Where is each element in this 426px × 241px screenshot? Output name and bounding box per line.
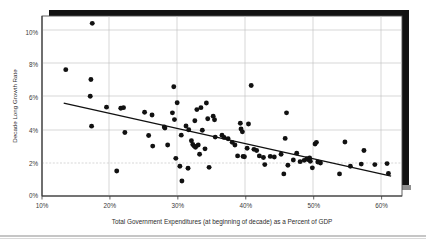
scatter-point bbox=[90, 21, 95, 26]
scatter-point bbox=[114, 169, 119, 174]
scatter-point bbox=[170, 110, 175, 115]
x-tick-label: 40% bbox=[239, 202, 252, 209]
scatter-point bbox=[342, 140, 347, 145]
scatter-point bbox=[200, 128, 205, 133]
x-tick-label: 20% bbox=[104, 202, 117, 209]
scatter-point bbox=[281, 171, 286, 176]
scatter-plot: 0%2%4%6%8%10% 10%20%30%40%50%60% Decade … bbox=[0, 0, 426, 241]
y-tick-label: 10% bbox=[25, 29, 38, 36]
scatter-point bbox=[385, 161, 390, 166]
x-axis-title: Total Government Expenditures (at beginn… bbox=[112, 218, 333, 226]
scatter-point bbox=[272, 155, 277, 160]
scatter-point bbox=[249, 83, 254, 88]
scatter-point bbox=[245, 146, 250, 151]
scatter-point bbox=[238, 121, 243, 126]
scatter-point bbox=[150, 113, 155, 118]
scatter-point bbox=[232, 143, 237, 148]
scatter-point bbox=[284, 110, 289, 115]
scatter-point bbox=[122, 130, 127, 135]
y-tick-label: 0% bbox=[29, 192, 39, 199]
scatter-point bbox=[177, 164, 182, 169]
scatter-point bbox=[314, 140, 319, 145]
y-tick-label: 6% bbox=[29, 94, 39, 101]
scatter-point bbox=[198, 105, 203, 110]
scatter-point bbox=[205, 116, 210, 121]
scatter-point bbox=[89, 124, 94, 129]
scatter-point bbox=[172, 117, 177, 122]
scatter-point bbox=[150, 144, 155, 149]
scatter-point bbox=[372, 162, 377, 167]
scatter-point bbox=[179, 179, 184, 184]
scatter-point bbox=[240, 129, 245, 134]
scatter-point bbox=[192, 118, 197, 123]
scatter-point bbox=[88, 94, 93, 99]
scatter-point bbox=[146, 133, 151, 138]
scatter-point bbox=[285, 163, 290, 168]
scatter-point bbox=[362, 148, 367, 153]
scatter-point bbox=[121, 105, 126, 110]
scatter-point bbox=[142, 110, 147, 115]
scatter-point bbox=[165, 143, 170, 148]
x-tick-label: 10% bbox=[36, 202, 49, 209]
y-tick-label: 4% bbox=[29, 127, 39, 134]
scatter-point bbox=[173, 156, 178, 161]
scatter-point bbox=[203, 146, 208, 151]
x-tick-label: 60% bbox=[375, 202, 388, 209]
scatter-point bbox=[254, 148, 259, 153]
scatter-point bbox=[104, 105, 109, 110]
plot-frame bbox=[42, 16, 402, 196]
scatter-point bbox=[196, 143, 201, 148]
scatter-point bbox=[246, 122, 251, 127]
scatter-point bbox=[310, 165, 315, 170]
scatter-point bbox=[262, 162, 267, 167]
scatter-point bbox=[283, 136, 288, 141]
chart-figure: 0%2%4%6%8%10% 10%20%30%40%50%60% Decade … bbox=[0, 0, 426, 241]
scatter-point bbox=[171, 84, 176, 89]
scatter-point bbox=[63, 67, 68, 72]
scatter-point bbox=[204, 101, 209, 106]
scatter-point bbox=[308, 159, 313, 164]
scatter-point bbox=[197, 152, 202, 157]
scatter-point bbox=[242, 154, 247, 159]
y-axis-title: Decade Long Growth Rate bbox=[11, 69, 18, 143]
scatter-point bbox=[212, 117, 217, 122]
y-tick-label: 2% bbox=[29, 160, 39, 167]
scatter-point bbox=[359, 162, 364, 167]
scatter-point bbox=[175, 100, 180, 105]
scatter-point bbox=[88, 77, 93, 82]
x-tick-label: 50% bbox=[307, 202, 320, 209]
scatter-point bbox=[337, 171, 342, 176]
y-tick-label: 8% bbox=[29, 61, 39, 68]
scatter-point bbox=[261, 155, 266, 160]
scatter-point bbox=[179, 133, 184, 138]
scatter-point bbox=[235, 153, 240, 158]
scatter-point bbox=[186, 166, 191, 171]
scatter-point bbox=[207, 165, 212, 170]
scatter-point bbox=[291, 158, 296, 163]
x-tick-label: 30% bbox=[172, 202, 185, 209]
